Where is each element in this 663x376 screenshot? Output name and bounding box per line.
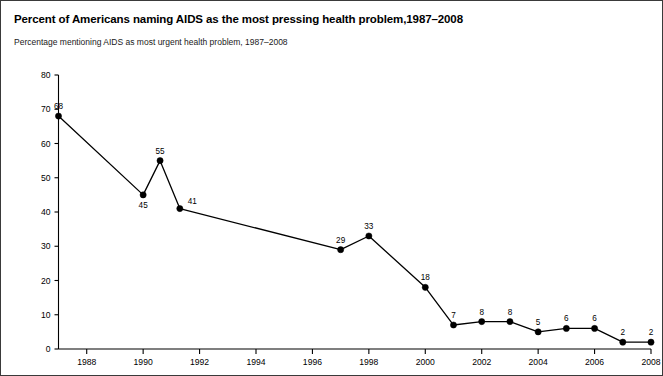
data-point-marker (140, 192, 146, 198)
data-point-label: 68 (54, 102, 64, 111)
data-point-label: 29 (336, 236, 346, 245)
x-tick-label: 2000 (416, 357, 435, 367)
data-point-marker (450, 322, 456, 328)
y-tick-label: 60 (41, 139, 51, 149)
data-point-marker (507, 319, 513, 325)
y-tick-label: 70 (41, 104, 51, 114)
x-tick-label: 2004 (529, 357, 548, 367)
x-tick-label: 1994 (246, 357, 265, 367)
data-point-marker (366, 233, 372, 239)
line-chart-plot: 0102030405060708019881990199219941996199… (1, 1, 663, 376)
data-point-marker (479, 319, 485, 325)
data-point-marker (177, 205, 183, 211)
x-tick-label: 1996 (303, 357, 322, 367)
x-tick-label: 1990 (134, 357, 153, 367)
data-point-marker (422, 284, 428, 290)
x-tick-label: 1992 (190, 357, 209, 367)
data-point-label: 45 (139, 201, 149, 210)
data-point-marker (338, 247, 344, 253)
data-point-label: 55 (156, 147, 166, 156)
y-tick-label: 50 (41, 173, 51, 183)
data-point-marker (55, 113, 61, 119)
data-point-label: 8 (508, 308, 513, 317)
data-point-label: 18 (421, 273, 431, 282)
data-point-label: 33 (364, 222, 374, 231)
data-point-label: 8 (479, 308, 484, 317)
y-tick-label: 80 (41, 70, 51, 80)
data-point-label: 6 (564, 314, 569, 323)
y-tick-label: 0 (46, 344, 51, 354)
data-point-label: 2 (621, 328, 626, 337)
data-point-label: 5 (536, 318, 541, 327)
data-point-marker (157, 158, 163, 164)
data-line (59, 116, 652, 342)
y-tick-label: 40 (41, 207, 51, 217)
data-point-label: 6 (592, 314, 597, 323)
chart-svg: 0102030405060708019881990199219941996199… (1, 1, 663, 376)
data-point-label: 2 (649, 328, 654, 337)
chart-page: Percent of Americans naming AIDS as the … (0, 0, 663, 376)
x-tick-label: 2006 (585, 357, 604, 367)
data-point-marker (591, 325, 597, 331)
x-tick-label: 1988 (77, 357, 96, 367)
x-tick-label: 2002 (472, 357, 491, 367)
y-tick-label: 30 (41, 241, 51, 251)
data-point-label: 41 (188, 197, 198, 206)
data-point-marker (620, 339, 626, 345)
data-point-marker (648, 339, 654, 345)
data-point-marker (563, 325, 569, 331)
x-tick-label: 2008 (641, 357, 660, 367)
y-tick-label: 10 (41, 310, 51, 320)
data-point-marker (535, 329, 541, 335)
x-tick-label: 1998 (359, 357, 378, 367)
data-point-label: 7 (451, 311, 456, 320)
y-tick-label: 20 (41, 276, 51, 286)
